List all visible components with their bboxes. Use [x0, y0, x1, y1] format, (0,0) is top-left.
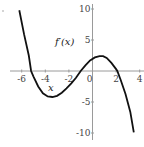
y-tick-label: -5	[82, 97, 91, 107]
x-tick-label: 4	[137, 74, 143, 84]
derivative-plot: -6-4-2024 105-5-10 f′(x) x	[0, 0, 144, 147]
y-tick-label: -10	[76, 128, 91, 138]
y-tick-label: 10	[79, 4, 91, 14]
stray-dot	[2, 10, 3, 11]
x-tick-label: -6	[17, 74, 26, 84]
y-tick-label: 5	[85, 35, 91, 45]
x-axis-label: x	[48, 82, 54, 93]
x-tick-label: 0	[87, 74, 93, 84]
function-label: f′(x)	[54, 36, 75, 47]
